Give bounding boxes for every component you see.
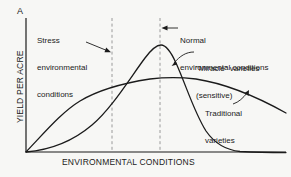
annotation-traditional-line2: varieties bbox=[205, 137, 242, 146]
annotation-traditional-varieties: Traditional varieties bbox=[205, 92, 242, 164]
x-axis-label: ENVIRONMENTAL CONDITIONS bbox=[62, 158, 195, 168]
annotation-stress-line2: environmental bbox=[37, 64, 87, 73]
panel-label: A bbox=[17, 6, 23, 16]
annotation-stress-conditions: Stress environmental conditions bbox=[37, 19, 87, 117]
annotation-stress-line1: Stress bbox=[37, 37, 87, 46]
arrowhead-normal-icon bbox=[162, 26, 168, 31]
annotation-stress-line3: conditions bbox=[37, 91, 87, 100]
annotation-traditional-line1: Traditional bbox=[205, 110, 242, 119]
arrowhead-stress-icon bbox=[105, 48, 112, 53]
annotation-normal-line1: Normal bbox=[180, 37, 269, 46]
leader-line-stress bbox=[86, 42, 108, 51]
figure-panel-a: A YIELD PER ACRE ENVIRONMENTAL CONDITION… bbox=[0, 0, 291, 177]
annotation-miracle-line1: "Miracle" varieties bbox=[196, 65, 259, 74]
y-axis-label: YIELD PER ACRE bbox=[16, 39, 26, 135]
